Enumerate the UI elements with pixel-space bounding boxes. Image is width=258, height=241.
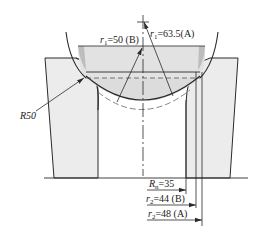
label-r2-b: r2=44 (B) [146,193,185,206]
label-rn: Rn=35 [148,178,174,191]
label-r50: R50 [19,110,36,121]
label-r1-b: r1=50 (B) [100,34,139,47]
label-r2-a: r2=48 (A) [148,208,187,221]
sphere-cap [78,46,205,78]
cross-section-diagram: r1=50 (B) r1=63.5(A) R50 Rn=35 r2=44 (B)… [0,0,258,241]
label-r1-a: r1=63.5(A) [150,28,194,41]
